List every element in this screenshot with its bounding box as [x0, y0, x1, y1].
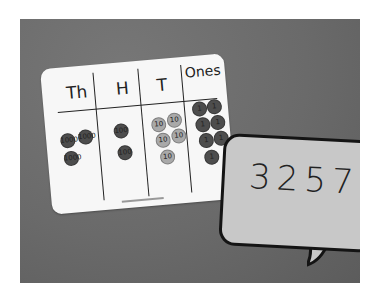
- counter-one: 1: [198, 132, 214, 148]
- counter-thousand: 1000: [63, 150, 79, 166]
- counter-one: 1: [206, 99, 222, 115]
- counter-hundred: 100: [117, 145, 133, 161]
- column-divider: [137, 69, 149, 197]
- header-thousands: Th: [65, 81, 88, 103]
- counter-ten: 10: [151, 117, 167, 133]
- counter-one: 1: [191, 101, 207, 117]
- place-value-card: Th H T Ones 1000 1000 1000 100 100 10 10…: [40, 53, 236, 214]
- number-text: 3257: [248, 156, 360, 202]
- header-ones: Ones: [184, 62, 221, 81]
- counter-one: 1: [204, 149, 220, 165]
- speech-bubble: 3257: [221, 137, 360, 275]
- fine-print: [122, 197, 164, 203]
- counter-ten: 10: [155, 132, 171, 148]
- counter-one: 1: [210, 114, 226, 130]
- header-hundreds: H: [115, 78, 129, 99]
- header-tens: T: [156, 74, 168, 95]
- counter-ten: 10: [166, 112, 182, 128]
- counter-one: 1: [195, 117, 211, 133]
- counter-hundred: 100: [113, 123, 129, 139]
- photo: Th H T Ones 1000 1000 1000 100 100 10 10…: [20, 19, 360, 283]
- counter-ten: 10: [171, 128, 187, 144]
- counter-thousand: 1000: [77, 129, 93, 145]
- counter-ten: 10: [159, 149, 175, 165]
- counter-thousand: 1000: [60, 133, 76, 149]
